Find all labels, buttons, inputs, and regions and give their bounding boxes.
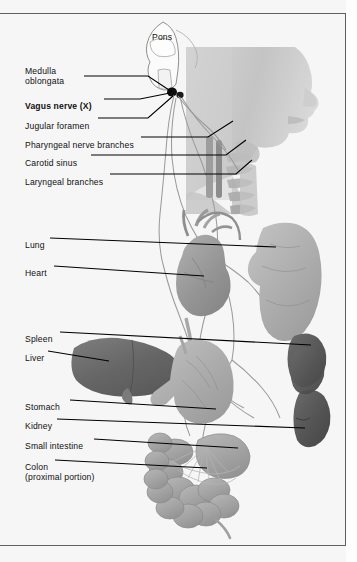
label-heart: Heart	[25, 268, 47, 278]
leader-kidney	[57, 419, 305, 428]
kidney-upper	[293, 390, 330, 447]
leader-vagus	[104, 93, 170, 99]
label-laryngeal-branches: Laryngeal branches	[25, 177, 103, 187]
label-vagus-nerve: Vagus nerve (X)	[25, 101, 92, 111]
lower-abdomen	[144, 433, 250, 538]
label-lung: Lung	[25, 240, 45, 250]
label-pharyngeal-nerve-branches: Pharyngeal nerve branches	[25, 140, 134, 150]
label-jugular-foramen: Jugular foramen	[25, 121, 89, 131]
top-rule	[0, 13, 357, 14]
leader-lung	[50, 238, 276, 247]
ascending-colon	[144, 433, 172, 489]
label-liver: Liver	[25, 353, 44, 363]
label-spleen: Spleen	[25, 334, 53, 344]
abdomen-upper	[71, 333, 326, 423]
label-stomach: Stomach	[25, 402, 60, 412]
label-pons: Pons	[152, 32, 172, 42]
page-edge	[346, 0, 357, 562]
anatomical-figure: Medulla oblongataVagus nerve (X)Jugular …	[0, 0, 357, 562]
label-colon: Colon (proximal portion)	[25, 462, 95, 483]
label-kidney: Kidney	[25, 421, 52, 431]
label-small-intestine: Small intestine	[25, 441, 83, 451]
lung	[248, 223, 322, 341]
appendix	[216, 520, 230, 538]
bottom-rule	[0, 545, 357, 546]
label-carotid-sinus: Carotid sinus	[25, 158, 77, 168]
label-medulla-oblongata: Medulla oblongata	[25, 66, 64, 87]
kidney-lower	[290, 347, 324, 394]
thorax-region	[176, 210, 322, 350]
trachea	[240, 163, 258, 216]
head-neck-region	[146, 22, 318, 216]
jugular-vein	[216, 140, 222, 198]
medulla-stem	[158, 69, 172, 90]
